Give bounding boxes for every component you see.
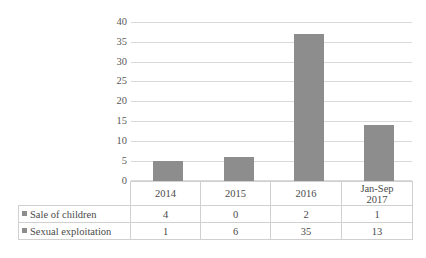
data-table: 2014 2015 2016 Jan-Sep 2017 Sale of chil… bbox=[18, 181, 413, 240]
gridline bbox=[131, 121, 412, 122]
category-header-2015: 2015 bbox=[201, 182, 271, 206]
y-axis-labels: 40 35 30 25 20 15 10 5 0 bbox=[99, 22, 127, 181]
y-tick-label: 35 bbox=[101, 37, 127, 48]
cell-exploitation-2014: 1 bbox=[131, 223, 201, 240]
cell-exploitation-2015: 6 bbox=[201, 223, 271, 240]
legend-entry-sexual-exploitation: Sexual exploitation bbox=[19, 223, 131, 240]
legend-swatch-icon bbox=[22, 211, 27, 216]
gridline bbox=[131, 42, 412, 43]
category-header-2016: 2016 bbox=[271, 182, 342, 206]
gridline bbox=[131, 101, 412, 102]
cell-exploitation-2016: 35 bbox=[271, 223, 342, 240]
legend-swatch-icon bbox=[22, 228, 27, 233]
series-label: Sale of children bbox=[30, 209, 96, 220]
bar-2015 bbox=[224, 157, 254, 181]
cell-sale-2015: 0 bbox=[201, 206, 271, 223]
y-tick-label: 30 bbox=[101, 57, 127, 68]
legend-entry-sale-of-children: Sale of children bbox=[19, 206, 131, 223]
category-label-line1: 2014 bbox=[131, 188, 200, 199]
table-corner-blank bbox=[19, 182, 131, 206]
bar-chart-with-data-table: 40 35 30 25 20 15 10 5 0 bbox=[0, 0, 426, 258]
y-tick-label: 25 bbox=[101, 76, 127, 87]
category-label-line1: 2015 bbox=[201, 188, 270, 199]
y-tick-label: 15 bbox=[101, 116, 127, 127]
y-tick-label: 10 bbox=[101, 136, 127, 147]
y-tick-label: 40 bbox=[101, 17, 127, 28]
bar-2016 bbox=[294, 34, 324, 181]
gridline bbox=[131, 81, 412, 82]
category-header-jan-sep-2017: Jan-Sep 2017 bbox=[342, 182, 413, 206]
bar-jan-sep-2017 bbox=[364, 125, 394, 181]
table-row: Sexual exploitation 1 6 35 13 bbox=[19, 223, 413, 240]
series-label: Sexual exploitation bbox=[30, 226, 111, 237]
y-tick-label: 5 bbox=[101, 156, 127, 167]
bar-2014 bbox=[153, 161, 183, 181]
category-label-line2: 2017 bbox=[342, 194, 412, 205]
gridline bbox=[131, 62, 412, 63]
table-row-categories: 2014 2015 2016 Jan-Sep 2017 bbox=[19, 182, 413, 206]
gridline bbox=[131, 22, 412, 23]
cell-exploitation-jan-sep-2017: 13 bbox=[342, 223, 413, 240]
category-label-line1: Jan-Sep bbox=[342, 183, 412, 194]
cell-sale-2014: 4 bbox=[131, 206, 201, 223]
y-tick-label: 20 bbox=[101, 96, 127, 107]
cell-sale-2016: 2 bbox=[271, 206, 342, 223]
category-header-2014: 2014 bbox=[131, 182, 201, 206]
plot-area bbox=[131, 22, 412, 181]
cell-sale-jan-sep-2017: 1 bbox=[342, 206, 413, 223]
category-label-line1: 2016 bbox=[271, 188, 341, 199]
table-row: Sale of children 4 0 2 1 bbox=[19, 206, 413, 223]
